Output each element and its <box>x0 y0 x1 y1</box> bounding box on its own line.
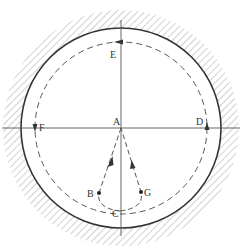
diagram-svg: A B C D E F G <box>0 0 247 248</box>
point-G-dot <box>139 190 143 194</box>
label-G: G <box>144 187 151 198</box>
point-B-dot <box>97 191 101 195</box>
diagram-canvas: A B C D E F G <box>0 0 247 248</box>
label-E: E <box>110 49 116 60</box>
label-D: D <box>196 116 203 127</box>
label-A: A <box>113 116 121 127</box>
label-B: B <box>87 188 94 199</box>
label-C: C <box>112 208 119 219</box>
label-F: F <box>39 122 45 133</box>
